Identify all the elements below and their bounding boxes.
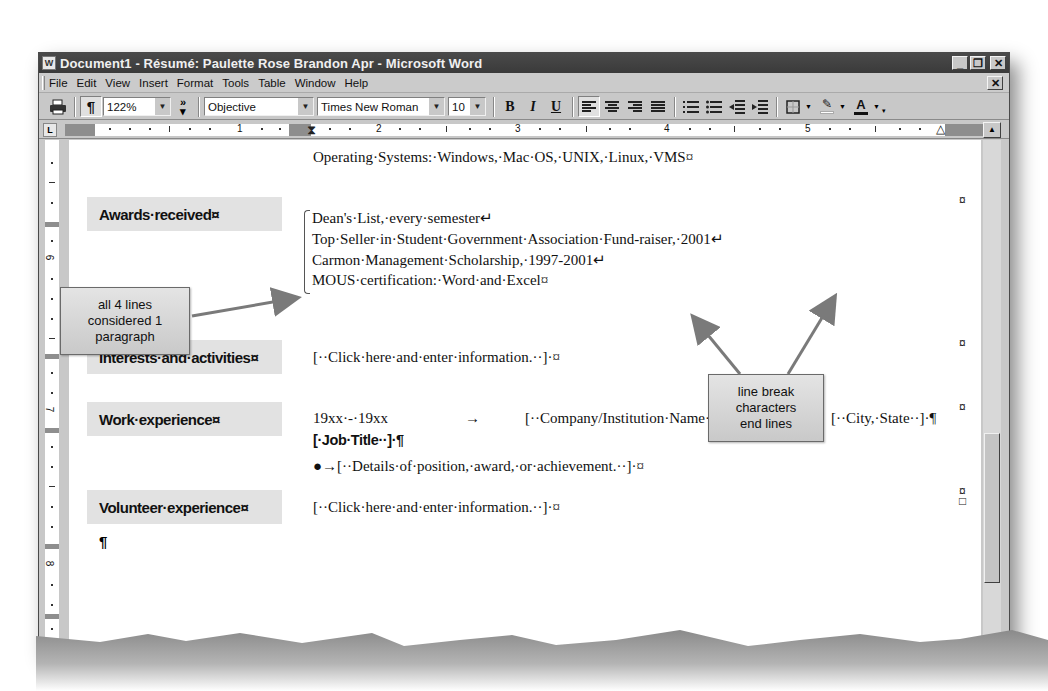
scroll-up-button[interactable]: ▲ — [983, 122, 1001, 138]
chevron-down-icon[interactable]: ▼ — [873, 103, 880, 110]
city-state-placeholder[interactable]: [··City,·State··]·¶ — [831, 410, 936, 427]
tab-selector-button[interactable]: L — [43, 123, 57, 137]
increase-indent-button[interactable] — [749, 96, 771, 117]
title-bar: W Document1 - Résumé: Paulette Rose Bran… — [39, 53, 1009, 73]
zoom-combo[interactable]: 122% ▼ — [103, 97, 171, 116]
volunteer-placeholder[interactable]: [··Click·here·and·enter·information.··]·… — [313, 499, 560, 516]
volunteer-heading[interactable]: Volunteer·experience¤ — [87, 490, 282, 524]
ruler-label: 1 — [237, 123, 243, 134]
numbered-list-icon — [683, 100, 699, 114]
chevron-down-icon[interactable]: ▼ — [298, 98, 313, 115]
bullets-button[interactable] — [703, 96, 725, 117]
callout-line: end lines — [736, 416, 797, 432]
ruler-tick — [51, 202, 53, 204]
ruler-label: 8 — [44, 561, 55, 567]
font-color-button[interactable]: A — [850, 96, 872, 117]
scrollbar-thumb[interactable] — [984, 433, 1000, 583]
callout-line: characters — [736, 400, 797, 416]
menu-tools[interactable]: Tools — [222, 77, 249, 89]
awards-heading[interactable]: Awards·received¤ — [87, 197, 282, 231]
ruler-tick — [279, 128, 281, 130]
end-of-row-mark: ¤ — [959, 336, 966, 350]
zoom-value: 122% — [107, 101, 136, 113]
chevron-down-icon[interactable]: ▼ — [155, 98, 170, 115]
ruler-tick — [446, 126, 447, 132]
chevron-down-icon[interactable]: ▼ — [429, 98, 444, 115]
decrease-indent-button[interactable] — [726, 96, 748, 117]
horizontal-ruler[interactable]: L 1 ⧗ 2 3 4 5 — [39, 121, 1009, 139]
bold-button[interactable]: B — [499, 96, 521, 117]
close-window-button[interactable]: ✕ — [990, 56, 1006, 70]
ruler-tick — [169, 126, 170, 132]
numbering-button[interactable] — [680, 96, 702, 117]
work-experience-heading[interactable]: Work·experience¤ — [87, 402, 282, 436]
end-of-row-mark: ¤ — [959, 400, 966, 414]
interests-placeholder[interactable]: [··Click·here·and·enter·information.··]·… — [313, 349, 560, 366]
chevron-down-icon[interactable]: ▼ — [839, 103, 846, 110]
italic-button[interactable]: I — [522, 96, 544, 117]
font-size-combo[interactable]: 10 ▼ — [448, 97, 486, 116]
ruler-tick — [129, 128, 131, 130]
font-size-value: 10 — [452, 101, 465, 113]
work-dates[interactable]: 19xx·-·19xx — [313, 410, 388, 427]
restore-button[interactable]: ❐ — [970, 56, 986, 70]
menu-format[interactable]: Format — [177, 77, 213, 89]
ruler-margin-block — [45, 428, 59, 433]
toolbar-separator — [74, 97, 76, 117]
show-hide-button[interactable]: ¶ — [80, 96, 102, 117]
details-bullet[interactable]: ●→[··Details·of·position,·award,·or·achi… — [313, 458, 644, 475]
menu-view[interactable]: View — [105, 77, 130, 89]
menu-file[interactable]: File — [49, 77, 68, 89]
ruler-tick — [51, 506, 53, 508]
align-left-button[interactable] — [578, 96, 600, 117]
ruler-tick — [51, 392, 53, 394]
award-line-1[interactable]: Dean's·List,·every·semester↵ — [312, 209, 493, 227]
vertical-scrollbar[interactable]: ▲ — [983, 140, 1001, 652]
menu-window[interactable]: Window — [295, 77, 336, 89]
increase-indent-icon — [752, 100, 768, 114]
menu-grip[interactable] — [42, 76, 45, 90]
ruler-tick — [875, 126, 876, 132]
ruler-tick — [51, 318, 53, 320]
align-center-button[interactable] — [601, 96, 623, 117]
ruler-left-margin — [65, 124, 95, 136]
menu-help[interactable]: Help — [345, 77, 369, 89]
toolbar-separator — [674, 97, 676, 117]
vertical-ruler[interactable]: 6 7 8 — [39, 140, 65, 652]
highlight-button[interactable]: ✎ — [816, 96, 838, 117]
award-line-4[interactable]: MOUS·certification:·Word·and·Excel¤ — [312, 272, 548, 289]
minimize-button[interactable]: _ — [952, 56, 968, 70]
ruler-tick — [51, 446, 53, 448]
print-button[interactable] — [47, 96, 69, 117]
company-placeholder[interactable]: [··Company/Institution·Name··]· — [525, 410, 725, 427]
right-indent-marker-icon[interactable]: △ — [936, 122, 945, 136]
award-line-2[interactable]: Top·Seller·in·Student·Government·Associa… — [312, 230, 724, 248]
indent-marker-icon[interactable]: ⧗ — [307, 121, 316, 138]
toolbar-options-icon[interactable]: ▾ — [882, 107, 886, 115]
justify-button[interactable] — [647, 96, 669, 117]
borders-button[interactable] — [782, 96, 804, 117]
ruler-tick — [51, 372, 53, 374]
menu-insert[interactable]: Insert — [139, 77, 168, 89]
chevron-down-icon[interactable]: ▼ — [805, 103, 812, 110]
job-title-placeholder[interactable]: [·Job·Title··]·¶ — [313, 432, 404, 448]
style-combo[interactable]: Objective ▼ — [204, 97, 314, 116]
award-line-3[interactable]: Carmon·Management·Scholarship,·1997-2001… — [312, 251, 606, 269]
toolbar-separator — [198, 97, 200, 117]
align-right-icon — [628, 101, 642, 113]
more-buttons-button[interactable]: »▾ — [176, 98, 190, 116]
ruler-tick — [51, 278, 53, 280]
ruler-margin-block — [45, 544, 59, 549]
document-page[interactable]: Operating·Systems:·Windows,·Mac·OS,·UNIX… — [69, 140, 981, 652]
close-document-button[interactable]: ✕ — [987, 76, 1003, 90]
ruler-margin-block — [45, 614, 59, 619]
operating-systems-line[interactable]: Operating·Systems:·Windows,·Mac·OS,·UNIX… — [313, 149, 693, 166]
underline-button[interactable]: U — [545, 96, 567, 117]
font-combo[interactable]: Times New Roman ▼ — [317, 97, 445, 116]
ruler-tick — [49, 338, 55, 339]
chevron-down-icon[interactable]: ▼ — [470, 98, 485, 115]
align-right-button[interactable] — [624, 96, 646, 117]
menu-table[interactable]: Table — [258, 77, 286, 89]
style-value: Objective — [208, 101, 256, 113]
menu-edit[interactable]: Edit — [77, 77, 97, 89]
